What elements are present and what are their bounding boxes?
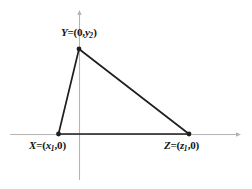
triangle-group [59, 49, 190, 134]
vertex-marker-Y [77, 47, 82, 52]
vertex-label-Y-equals: =(0, [68, 26, 85, 38]
vertex-label-Z-tail: ,0) [188, 139, 199, 151]
triangle-figure-svg [0, 0, 252, 189]
vertical-axis-arrow-icon [77, 10, 81, 15]
edge-XY [59, 49, 80, 134]
horizontal-axis-arrow-icon [236, 132, 241, 136]
edge-YZ [79, 49, 189, 134]
vertex-label-X: X=(x1,0) [29, 140, 66, 151]
vertex-label-X-equals: =( [36, 139, 46, 151]
vertex-label-X-sub: 1 [51, 144, 55, 153]
figure-container: Y=(0,y2) X=(x1,0) Z=(z1,0) [0, 0, 252, 189]
axes-group [10, 10, 241, 180]
vertex-marker-Z [187, 132, 192, 137]
vertex-label-Y-sub: 2 [89, 31, 93, 40]
vertex-label-Z-sub: 1 [184, 144, 188, 153]
vertex-label-Z-equals: =( [171, 139, 181, 151]
vertex-label-Y: Y=(0,y2) [61, 27, 97, 38]
vertex-label-Z: Z=(z1,0) [164, 140, 199, 151]
vertex-label-X-tail: ,0) [55, 139, 66, 151]
vertex-marker-X [56, 132, 61, 137]
vertex-label-Y-tail: ) [93, 26, 96, 38]
